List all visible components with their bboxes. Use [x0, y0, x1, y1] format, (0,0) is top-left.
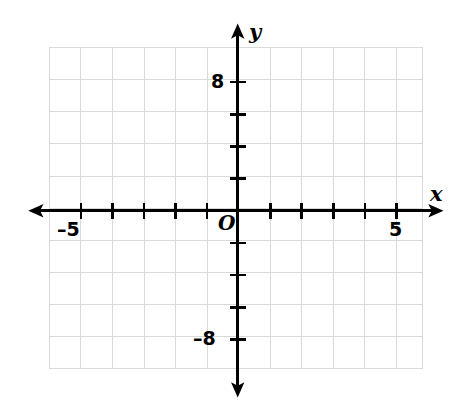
x-axis-name: x	[430, 183, 443, 204]
coordinate-plane-figure: –5 5 8 –8 O y x	[0, 0, 472, 409]
x-axis-label--5: –5	[57, 220, 80, 239]
coordinate-plane-canvas	[0, 0, 472, 409]
origin-label: O	[218, 213, 235, 233]
x-axis-label-5: 5	[389, 220, 402, 239]
y-axis-name: y	[249, 21, 261, 42]
x-axis	[28, 204, 443, 217]
y-axis-label-8: 8	[211, 72, 224, 91]
y-axis-label--8: –8	[193, 329, 216, 348]
